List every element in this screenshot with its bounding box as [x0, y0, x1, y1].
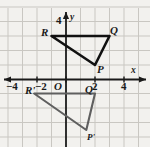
vertex-label-R: R: [41, 27, 48, 38]
x-tick-label-neg2: −2: [35, 81, 47, 92]
origin-label: O: [54, 81, 62, 92]
x-tick-label-pos4: 4: [121, 81, 127, 92]
vertex-label-P-prime: P': [87, 133, 95, 142]
coordinate-plane-svg: [0, 0, 150, 147]
y-tick-label-4: 4: [56, 15, 62, 26]
vertex-label-R-prime: R': [25, 85, 35, 96]
diagram-canvas: R Q P R' Q' P' y x O −4 −2 2 4 4: [0, 0, 150, 147]
vertex-label-P: P: [97, 64, 104, 75]
x-tick-label-pos2: 2: [92, 81, 98, 92]
vertex-label-Q: Q: [110, 25, 118, 36]
x-tick-label-neg4: −4: [6, 81, 18, 92]
y-axis-label: y: [70, 13, 74, 23]
x-axis-label: x: [131, 66, 136, 76]
